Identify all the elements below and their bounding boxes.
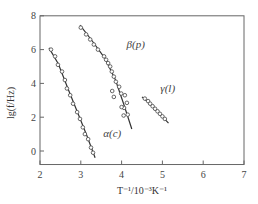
chart: 02468 234567 α(c)β(p)γ(l) T⁻¹/10⁻³K⁻¹ lg…: [0, 0, 258, 204]
data-point-marker: [86, 137, 90, 141]
data-point-marker: [56, 63, 60, 67]
data-point-marker: [89, 146, 93, 150]
data-point-marker: [126, 113, 130, 117]
series-0: [49, 48, 95, 158]
x-axis-label: T⁻¹/10⁻³K⁻¹: [117, 185, 167, 196]
x-tick-label: 2: [38, 169, 43, 180]
y-tick-label: 4: [31, 78, 36, 89]
data-point-marker: [117, 85, 121, 89]
x-tick-label: 4: [119, 169, 124, 180]
data-point-marker: [120, 105, 124, 109]
y-tick-label: 8: [31, 10, 36, 21]
data-point-marker: [88, 38, 92, 42]
data-point-marker: [112, 95, 116, 99]
data-point-marker: [65, 87, 69, 91]
data-point-marker: [79, 26, 83, 30]
data-point-marker: [104, 58, 108, 62]
data-point-marker: [110, 89, 114, 93]
data-point-marker: [114, 80, 118, 84]
series-labels: α(c)β(p)γ(l): [103, 38, 175, 141]
y-tick-label: 0: [31, 146, 36, 157]
data-point-marker: [78, 117, 82, 121]
data-point-marker: [110, 70, 114, 74]
data-point-marker: [71, 102, 75, 106]
data-point-marker: [143, 97, 147, 101]
series-label: α(c): [103, 127, 121, 140]
data-point-marker: [81, 126, 85, 130]
x-tick-label: 3: [78, 169, 83, 180]
data-point-marker: [112, 75, 116, 79]
series-label: γ(l): [160, 82, 175, 95]
data-point-marker: [68, 93, 72, 97]
y-tick-label: 6: [31, 44, 36, 55]
series-label: β(p): [125, 38, 145, 51]
data-point-marker: [60, 70, 64, 74]
x-tick-label: 6: [201, 169, 206, 180]
data-point-marker: [106, 61, 110, 65]
data-point-marker: [75, 110, 79, 114]
data-point-marker: [63, 78, 67, 82]
x-tick-label: 5: [160, 169, 165, 180]
data-point-marker: [96, 48, 100, 52]
y-axis-label: lg(f/Hz): [5, 87, 17, 119]
y-axis-ticks: 02468: [31, 10, 44, 156]
data-point-marker: [84, 33, 88, 37]
series-1: [79, 25, 132, 129]
y-tick-label: 2: [31, 112, 36, 123]
x-axis-ticks: 234567: [38, 161, 247, 180]
data-point-marker: [53, 55, 57, 59]
data-point-marker: [102, 55, 106, 59]
data-point-marker: [163, 117, 167, 121]
data-point-marker: [92, 43, 96, 47]
data-point-marker: [83, 132, 87, 136]
data-point-marker: [119, 92, 123, 96]
data-point-marker: [49, 48, 53, 52]
data-point-marker: [91, 151, 95, 155]
x-tick-label: 7: [242, 169, 247, 180]
series-2: [142, 97, 169, 123]
data-point-marker: [123, 93, 127, 97]
data-point-marker: [125, 101, 129, 105]
data-point-marker: [108, 65, 112, 69]
data-point-marker: [122, 114, 126, 118]
